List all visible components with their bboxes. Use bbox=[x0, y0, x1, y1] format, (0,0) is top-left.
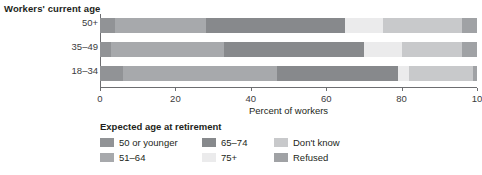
y-axis-labels: 50+ 35–49 18–34 bbox=[0, 0, 98, 100]
legend-item-label: 65–74 bbox=[221, 137, 247, 148]
bar-segment[interactable] bbox=[100, 42, 111, 57]
x-axis-tick-mark bbox=[402, 88, 403, 91]
y-axis-tick-label: 50+ bbox=[6, 17, 98, 28]
legend-item[interactable]: 50 or younger bbox=[100, 135, 202, 150]
x-axis-tick-label: 40 bbox=[246, 93, 257, 104]
legend-color-swatch bbox=[202, 138, 216, 147]
x-axis-tick-mark bbox=[326, 88, 327, 91]
legend-item[interactable]: 75+ bbox=[202, 150, 274, 165]
x-axis-tick-label: 60 bbox=[321, 93, 332, 104]
bar-row[interactable] bbox=[100, 42, 477, 57]
legend-item-label: Don't know bbox=[293, 137, 340, 148]
legend-item[interactable]: Refused bbox=[274, 150, 400, 165]
x-axis-tick-label: 80 bbox=[396, 93, 407, 104]
bar-segment[interactable] bbox=[111, 42, 224, 57]
bar-segment[interactable] bbox=[402, 42, 462, 57]
bar-segment[interactable] bbox=[398, 66, 409, 81]
x-axis-title: Percent of workers bbox=[100, 105, 477, 116]
plot-area bbox=[100, 14, 477, 87]
legend-color-swatch bbox=[274, 138, 288, 147]
bar-row[interactable] bbox=[100, 66, 477, 81]
legend-items: 50 or younger65–74Don't know51–6475+Refu… bbox=[100, 135, 400, 165]
x-axis-tick-label: 10 bbox=[472, 93, 482, 104]
y-axis-tick-label: 35–49 bbox=[6, 41, 98, 52]
legend-color-swatch bbox=[100, 153, 114, 162]
bar-segment[interactable] bbox=[345, 18, 383, 33]
legend-color-swatch bbox=[100, 138, 114, 147]
legend-item[interactable]: 51–64 bbox=[100, 150, 202, 165]
bar-segment[interactable] bbox=[462, 18, 477, 33]
legend-item[interactable]: Don't know bbox=[274, 135, 400, 150]
bar-segment[interactable] bbox=[409, 66, 473, 81]
bar-segment[interactable] bbox=[277, 66, 398, 81]
bar-segment[interactable] bbox=[224, 42, 363, 57]
x-axis-tick-label: 20 bbox=[170, 93, 181, 104]
legend-title: Expected age at retirement bbox=[100, 121, 400, 132]
bar-segment[interactable] bbox=[115, 18, 205, 33]
legend-item-label: 51–64 bbox=[119, 152, 145, 163]
x-axis-line bbox=[100, 87, 477, 88]
y-axis-tick-label: 18–34 bbox=[6, 65, 98, 76]
bar-segment[interactable] bbox=[364, 42, 402, 57]
x-axis-tick-mark bbox=[175, 88, 176, 91]
legend-item-label: Refused bbox=[293, 152, 328, 163]
legend: Expected age at retirement 50 or younger… bbox=[100, 121, 400, 165]
legend-color-swatch bbox=[274, 153, 288, 162]
x-axis-tick-mark bbox=[477, 88, 478, 91]
legend-item-label: 50 or younger bbox=[119, 137, 178, 148]
x-axis-tick-label: 0 bbox=[97, 93, 102, 104]
legend-item[interactable]: 65–74 bbox=[202, 135, 274, 150]
bar-segment[interactable] bbox=[462, 42, 477, 57]
bar-row[interactable] bbox=[100, 18, 477, 33]
bar-segment[interactable] bbox=[123, 66, 278, 81]
legend-color-swatch bbox=[202, 153, 216, 162]
bar-segment[interactable] bbox=[206, 18, 345, 33]
x-axis-tick-mark bbox=[100, 88, 101, 91]
legend-item-label: 75+ bbox=[221, 152, 237, 163]
x-axis-tick-mark bbox=[251, 88, 252, 91]
bar-segment[interactable] bbox=[100, 18, 115, 33]
bar-segment[interactable] bbox=[100, 66, 123, 81]
bar-segment[interactable] bbox=[473, 66, 477, 81]
bar-segment[interactable] bbox=[383, 18, 462, 33]
